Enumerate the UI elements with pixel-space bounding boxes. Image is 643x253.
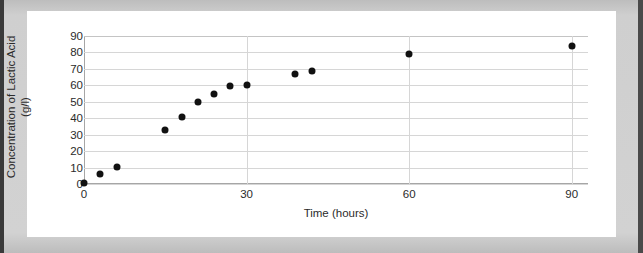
plot-area [84, 36, 588, 184]
y-axis-tick-label: 70 [57, 63, 83, 75]
data-point [308, 68, 315, 75]
y-axis-tick-label: 20 [57, 145, 83, 157]
gridline-horizontal [84, 85, 588, 86]
x-axis-tick-label: 60 [403, 188, 416, 200]
gridline-horizontal [84, 52, 588, 53]
x-axis-tick-labels: 0306090 [84, 188, 588, 204]
y-axis-tick-label: 80 [57, 46, 83, 58]
y-axis-tick-labels: 0102030405060708090 [57, 36, 83, 186]
data-point [113, 163, 120, 170]
gridline-horizontal [84, 184, 588, 185]
data-point [178, 114, 185, 121]
data-point [568, 42, 575, 49]
gridline-vertical [247, 36, 248, 184]
y-axis-tick-label: 40 [57, 112, 83, 124]
y-axis-tick-label: 30 [57, 129, 83, 141]
gridline-horizontal [84, 102, 588, 103]
gridline-horizontal [84, 36, 588, 37]
data-point [243, 81, 250, 88]
data-point [162, 126, 169, 133]
x-axis-tick-label: 90 [565, 188, 578, 200]
gridline-horizontal [84, 168, 588, 169]
gridline-horizontal [84, 118, 588, 119]
data-point [81, 180, 88, 187]
x-axis-tick-label: 0 [81, 188, 87, 200]
gridline-horizontal [84, 69, 588, 70]
page-left-edge [0, 0, 4, 253]
data-point [194, 98, 201, 105]
y-axis-tick-label: 90 [57, 30, 83, 42]
chart-card: Concentration of Lactic Acid (g/l) 01020… [27, 11, 616, 237]
y-axis-title-line2: (g/l) [19, 27, 33, 187]
chart-figure: Concentration of Lactic Acid (g/l) 01020… [27, 11, 616, 237]
y-axis-tick-label: 50 [57, 96, 83, 108]
gridline-vertical [409, 36, 410, 184]
y-axis-title: Concentration of Lactic Acid (g/l) [5, 27, 35, 187]
scanned-page-frame: Concentration of Lactic Acid (g/l) 01020… [0, 0, 643, 253]
gridline-vertical [572, 36, 573, 184]
data-point [406, 51, 413, 58]
page-right-edge [638, 0, 643, 253]
data-point [227, 83, 234, 90]
y-axis-line [84, 36, 85, 184]
gridline-horizontal [84, 151, 588, 152]
y-axis-title-line1: Concentration of Lactic Acid [5, 27, 19, 187]
data-point [211, 90, 218, 97]
y-axis-tick-label: 0 [57, 178, 83, 190]
data-point [292, 70, 299, 77]
gridline-horizontal [84, 135, 588, 136]
data-point [97, 171, 104, 178]
x-axis-tick-label: 30 [240, 188, 253, 200]
y-axis-tick-label: 60 [57, 79, 83, 91]
y-axis-tick-label: 10 [57, 162, 83, 174]
x-axis-title: Time (hours) [84, 207, 588, 219]
